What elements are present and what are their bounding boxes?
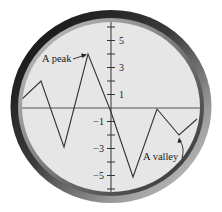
y-tick-label-neg3: −3	[93, 143, 104, 154]
diagram-canvas: 5 3 1 −1 −3 −5 A peak A valley	[0, 0, 222, 212]
valley-label: A valley	[143, 151, 179, 162]
y-tick-label-1: 1	[119, 89, 124, 100]
peak-label: A peak	[42, 53, 72, 64]
y-tick-label-5: 5	[119, 35, 124, 46]
oscilloscope-diagram: 5 3 1 −1 −3 −5 A peak A valley	[0, 0, 222, 212]
y-tick-label-3: 3	[119, 62, 124, 73]
y-tick-label-neg5: −5	[93, 170, 104, 181]
y-tick-label-neg1: −1	[93, 116, 104, 127]
